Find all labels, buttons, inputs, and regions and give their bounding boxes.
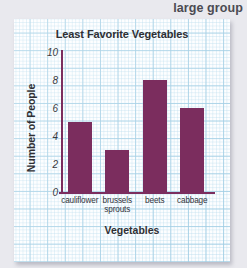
y-axis-tick-2: 2	[38, 159, 58, 170]
bar-chart: Least Favorite Vegetables Number of Peop…	[14, 19, 230, 262]
graph-paper-sheet: Least Favorite Vegetables Number of Peop…	[14, 19, 230, 262]
x-axis-line	[59, 192, 215, 194]
y-axis-tick-8: 8	[38, 75, 58, 86]
y-axis-tick-0: 0	[38, 187, 58, 198]
bar-beets	[143, 80, 167, 192]
x-axis-category-cabbage: cabbage	[174, 196, 212, 205]
header-band: large group	[0, 0, 247, 18]
page-header-title: large group	[173, 1, 243, 15]
x-axis-category-cauliflower: cauliflower	[61, 196, 99, 205]
y-axis-tick-labels: 0246810	[36, 52, 58, 192]
bar-cabbage	[180, 108, 204, 192]
x-axis-label: Vegetables	[44, 224, 220, 236]
x-axis-category-line2: sprouts	[104, 205, 130, 214]
y-axis-tick-4: 4	[38, 131, 58, 142]
y-axis-tick-6: 6	[38, 103, 58, 114]
y-axis-tick-10: 10	[38, 47, 58, 58]
x-axis-category-beets: beets	[136, 196, 174, 205]
bar-cauliflower	[68, 122, 92, 192]
bars-layer	[61, 52, 211, 192]
bar-brussels-sprouts	[105, 150, 129, 192]
chart-title: Least Favorite Vegetables	[14, 28, 230, 40]
x-axis-category-brussels-sprouts: brusselssprouts	[99, 196, 137, 214]
